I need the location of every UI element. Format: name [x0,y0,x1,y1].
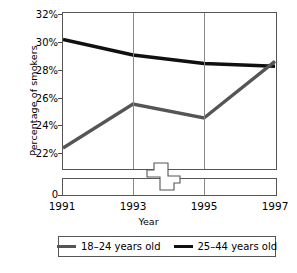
legend-item-18-24: 18–24 years old [57,241,161,252]
line-25-44-years-old [63,40,275,67]
series-lines [63,13,276,169]
axis-break-icon [62,160,277,200]
y-tick-label-26: 26% [24,94,58,104]
legend-item-25-44: 25–44 years old [174,241,278,252]
chart-legend: 18–24 years old 25–44 years old [58,236,276,257]
x-axis-label: Year [0,216,297,227]
gridline-1993 [133,13,134,169]
legend-swatch-18-24 [57,245,76,248]
chart-figure: Percentage of smokers 32% 30% 28% 26% 24… [0,0,297,273]
y-tick-label-28: 28% [24,66,58,76]
legend-label-25-44: 25–44 years old [198,241,278,252]
legend-label-18-24: 18–24 years old [81,241,161,252]
y-tick-label-22: 22% [24,149,58,159]
y-tick-label-24: 24% [24,121,58,131]
x-tick-label-1997: 1997 [250,200,297,212]
gridline-1995 [204,13,205,169]
y-tick-label-zero: 0 [24,190,58,200]
legend-swatch-25-44 [174,245,193,248]
plot-area [62,12,277,170]
line-18-24-years-old [63,61,275,148]
x-tick-label-1991: 1991 [37,200,87,212]
y-tick-label-32: 32% [24,10,58,20]
x-tick-label-1995: 1995 [179,200,229,212]
y-tick-labels: 32% 30% 28% 26% 24% 22% 0 [22,0,58,200]
y-tick-label-30: 30% [24,38,58,48]
x-tick-label-1993: 1993 [108,200,158,212]
